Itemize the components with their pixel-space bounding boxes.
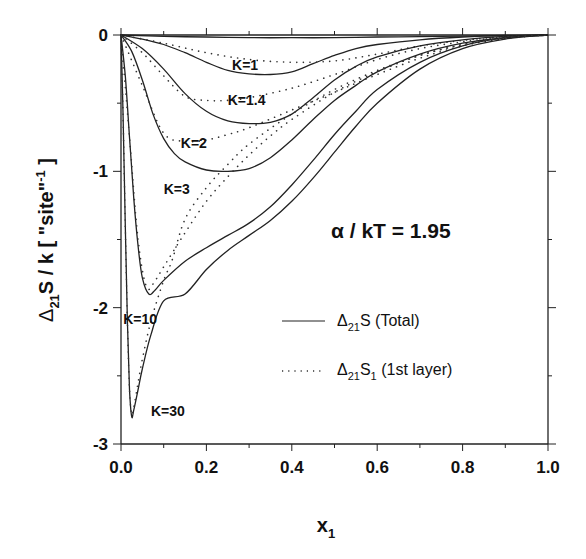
curve-label: K=2	[181, 135, 207, 151]
x-tick-label: 0.0	[109, 458, 133, 477]
curve-label: K=3	[164, 181, 190, 197]
k-3-first-layer-curve	[121, 35, 548, 142]
y-tick-label: -3	[93, 435, 108, 454]
legend: Δ21S (Total) Δ21S1 (1st layer)	[282, 312, 452, 382]
curve-label: K=10	[123, 311, 157, 327]
x-tick-label: 0.2	[195, 458, 219, 477]
curve-label: K=1	[232, 57, 258, 73]
k-10-total-curve	[121, 35, 548, 295]
x-axis-title: x1	[317, 514, 335, 541]
alpha-kt-annotation: α / kT = 1.95	[331, 219, 451, 242]
x-tick-label: 0.8	[451, 458, 475, 477]
curve-label: K=30	[151, 403, 185, 419]
y-tick-label: -1	[93, 162, 108, 181]
curve-label: K=1.4	[228, 92, 266, 108]
x-tick-label: 0.4	[280, 458, 304, 477]
y-tick-label: 0	[99, 26, 108, 45]
legend-total-label: Δ21S (Total)	[337, 312, 420, 333]
k-2-first-layer-curve	[121, 35, 548, 101]
y-axis-title: Δ21S / k [ "site"-1 ]	[33, 158, 62, 322]
x-tick-label: 0.6	[365, 458, 389, 477]
legend-first-layer-label: Δ21S1 (1st layer)	[337, 361, 452, 382]
y-axis-ticks: 0-1-2-3	[93, 26, 556, 454]
x-tick-label: 1.0	[536, 458, 560, 477]
y-tick-label: -2	[93, 299, 108, 318]
chart: 0.00.20.40.60.81.0 0-1-2-3 K=1K=1.4K=2K=…	[0, 0, 586, 559]
